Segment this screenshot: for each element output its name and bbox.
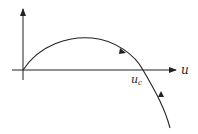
- critical-point-label: uc: [131, 73, 142, 87]
- arrow-lower-branch-icon: [158, 91, 164, 97]
- phase-diagram: u uc: [0, 0, 198, 134]
- trajectory-curve: [23, 38, 170, 128]
- x-axis-label: u: [181, 63, 189, 77]
